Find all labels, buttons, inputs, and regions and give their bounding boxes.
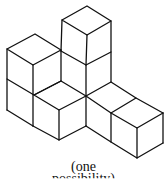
caption: (one possibility) (0, 160, 167, 183)
cube-structure-diagram (0, 0, 167, 165)
right-arm (86, 82, 163, 158)
front-middle-cube (33, 81, 86, 140)
caption-line-1: (one (0, 160, 167, 174)
caption-line-2: possibility) (0, 172, 167, 183)
left-column (7, 34, 61, 126)
